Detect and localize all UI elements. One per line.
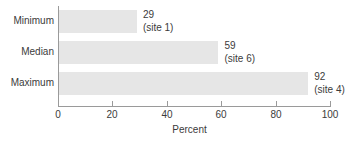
x-tick-label-2: 40 bbox=[161, 109, 172, 121]
x-axis-title: Percent bbox=[0, 124, 349, 136]
x-tick-3 bbox=[221, 101, 222, 106]
value-annotation-median: 59 (site 6) bbox=[224, 40, 255, 65]
x-tick-label-0: 0 bbox=[55, 109, 61, 121]
bar-chart: 0 20 40 60 80 100 Minimum Median Maximum… bbox=[0, 0, 349, 142]
value-number-minimum: 29 bbox=[143, 9, 174, 22]
value-number-maximum: 92 bbox=[314, 71, 345, 84]
value-annotation-maximum: 92 (site 4) bbox=[314, 71, 345, 96]
x-tick-label-3: 60 bbox=[215, 109, 226, 121]
y-axis-line bbox=[58, 6, 59, 107]
x-tick-1 bbox=[112, 101, 113, 106]
bar-maximum bbox=[58, 72, 308, 95]
x-tick-label-4: 80 bbox=[270, 109, 281, 121]
x-axis-title-text: Percent bbox=[172, 124, 206, 135]
x-tick-0 bbox=[58, 101, 59, 106]
x-tick-2 bbox=[167, 101, 168, 106]
x-tick-5 bbox=[330, 101, 331, 106]
bar-minimum bbox=[58, 10, 137, 33]
value-site-median: (site 6) bbox=[224, 52, 255, 65]
value-site-maximum: (site 4) bbox=[314, 83, 345, 96]
x-tick-4 bbox=[276, 101, 277, 106]
x-axis-line bbox=[58, 106, 331, 107]
bar-median bbox=[58, 41, 218, 64]
x-tick-label-5: 100 bbox=[322, 109, 339, 121]
category-label-minimum: Minimum bbox=[13, 15, 54, 27]
category-label-median: Median bbox=[21, 46, 54, 58]
value-site-minimum: (site 1) bbox=[143, 21, 174, 34]
value-annotation-minimum: 29 (site 1) bbox=[143, 9, 174, 34]
category-label-maximum: Maximum bbox=[11, 77, 54, 89]
value-number-median: 59 bbox=[224, 40, 255, 53]
x-tick-label-1: 20 bbox=[106, 109, 117, 121]
